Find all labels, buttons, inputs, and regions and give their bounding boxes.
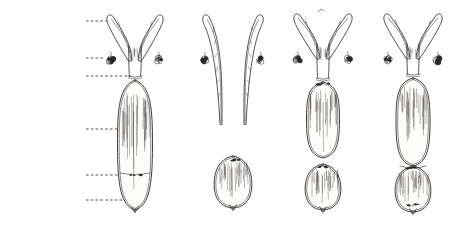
anatomical-plate bbox=[0, 0, 461, 246]
figure-a bbox=[106, 15, 163, 213]
figure-artwork bbox=[0, 0, 461, 246]
figure-d bbox=[384, 14, 442, 215]
figure-b bbox=[201, 15, 264, 211]
figure-c bbox=[293, 9, 353, 212]
